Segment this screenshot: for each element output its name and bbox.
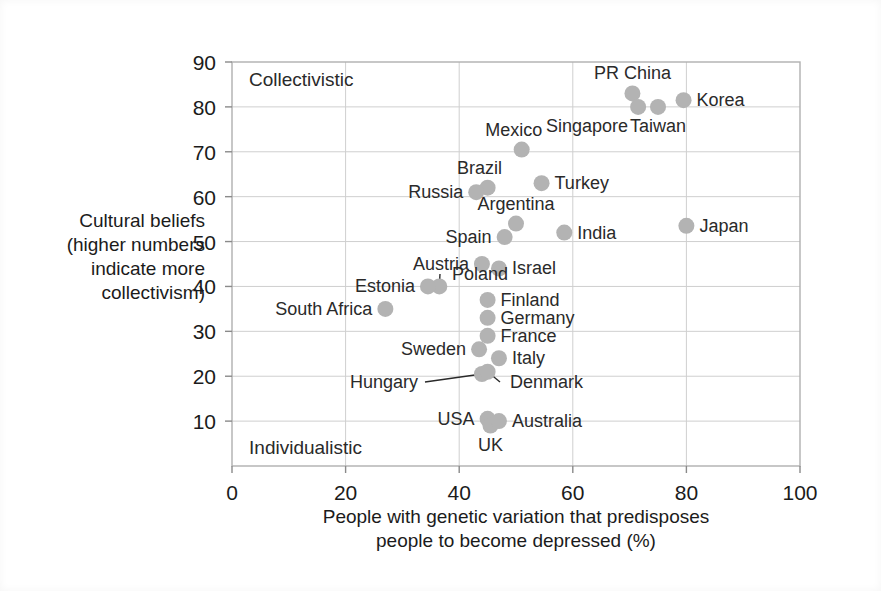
y-tick-label: 80 <box>193 96 216 119</box>
point-label-france: France <box>501 326 557 346</box>
point-label-hungary: Hungary <box>350 372 418 392</box>
y-tick-label: 30 <box>193 320 216 343</box>
data-point-estonia <box>420 278 436 294</box>
point-label-estonia: Estonia <box>355 276 416 296</box>
data-point-sweden <box>471 341 487 357</box>
leader-line-hungary <box>425 374 482 382</box>
corner-annotations: CollectivisticIndividualistic <box>249 69 362 458</box>
data-point-france <box>480 328 496 344</box>
point-label-usa: USA <box>438 409 475 429</box>
y-axis-title-line4: collectivism) <box>102 282 205 303</box>
x-tick-label: 60 <box>561 481 584 504</box>
point-label-south-africa: South Africa <box>275 299 373 319</box>
data-point-argentina <box>508 216 524 232</box>
point-label-sweden: Sweden <box>401 339 466 359</box>
data-point-finland <box>480 292 496 308</box>
data-point-singapore <box>630 99 646 115</box>
point-label-brazil: Brazil <box>457 158 502 178</box>
y-axis-title: Cultural beliefs (higher numbers indicat… <box>67 210 205 303</box>
data-point-spain <box>497 229 513 245</box>
data-point-japan <box>678 218 694 234</box>
data-point-korea <box>676 92 692 108</box>
point-label-turkey: Turkey <box>555 173 609 193</box>
x-tick-label: 40 <box>448 481 471 504</box>
y-tick-label: 60 <box>193 186 216 209</box>
x-axis-tick-labels: 020406080100 <box>226 481 817 504</box>
x-axis-title: People with genetic variation that predi… <box>323 506 710 551</box>
point-label-mexico: Mexico <box>485 120 542 140</box>
x-tick-label: 20 <box>334 481 357 504</box>
collectivistic-corner-label: Collectivistic <box>249 69 354 90</box>
point-label-italy: Italy <box>512 348 545 368</box>
point-label-pr-china: PR China <box>594 63 672 83</box>
x-tick-label: 80 <box>675 481 698 504</box>
point-label-denmark: Denmark <box>510 372 584 392</box>
data-point-australia <box>491 413 507 429</box>
point-label-india: India <box>577 223 617 243</box>
x-axis-title-line2: people to become depressed (%) <box>376 530 656 551</box>
point-label-australia: Australia <box>512 411 583 431</box>
y-tick-label: 20 <box>193 365 216 388</box>
y-tick-label: 10 <box>193 410 216 433</box>
data-point-italy <box>491 350 507 366</box>
point-label-japan: Japan <box>699 216 748 236</box>
data-point-labels: PR ChinaSingaporeTaiwanKoreaMexicoTurkey… <box>275 63 748 454</box>
y-axis-title-line1: Cultural beliefs <box>79 210 205 231</box>
data-point-taiwan <box>650 99 666 115</box>
y-axis-title-line2: (higher numbers <box>67 234 205 255</box>
point-label-uk: UK <box>478 435 503 455</box>
figure-container: 020406080100 102030405060708090 Collecti… <box>0 0 881 591</box>
point-label-taiwan: Taiwan <box>630 116 686 136</box>
data-point-turkey <box>534 175 550 191</box>
y-axis-title-line3: indicate more <box>91 258 205 279</box>
point-label-korea: Korea <box>697 90 746 110</box>
data-point-mexico <box>514 142 530 158</box>
y-tick-label: 90 <box>193 51 216 74</box>
y-tick-label: 70 <box>193 141 216 164</box>
data-point-germany <box>480 310 496 326</box>
x-tick-label: 0 <box>226 481 238 504</box>
individualistic-corner-label: Individualistic <box>249 437 362 458</box>
point-label-russia: Russia <box>408 182 464 202</box>
x-tick-label: 100 <box>782 481 817 504</box>
x-axis-title-line1: People with genetic variation that predi… <box>323 506 710 527</box>
data-point-south-africa <box>377 301 393 317</box>
data-point-denmark <box>480 364 496 380</box>
point-label-singapore: Singapore <box>546 116 628 136</box>
scatter-plot: 020406080100 102030405060708090 Collecti… <box>0 0 881 591</box>
data-point-india <box>556 225 572 241</box>
point-label-spain: Spain <box>446 227 492 247</box>
point-label-poland: Poland <box>452 264 508 284</box>
point-label-argentina: Argentina <box>477 194 555 214</box>
point-label-israel: Israel <box>512 258 556 278</box>
